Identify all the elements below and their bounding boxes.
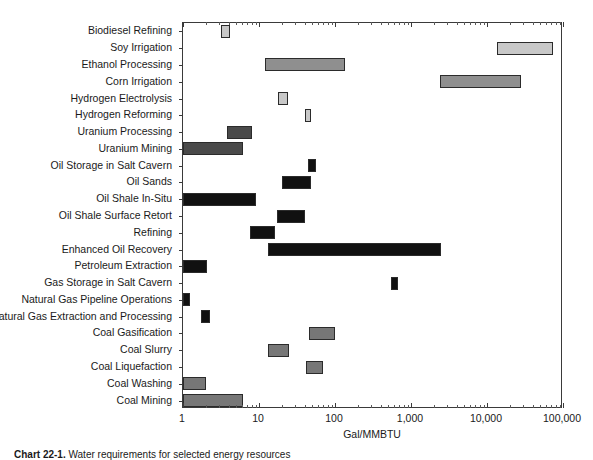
x-axis-minor-tick	[434, 22, 435, 25]
y-axis-tick	[179, 31, 183, 32]
y-axis-label-oil-shale-surface-retort: Oil Shale Surface Retort	[59, 209, 172, 221]
bar-soy-irrigation	[497, 42, 554, 55]
x-axis-minor-tick	[556, 22, 557, 25]
y-axis-tick	[179, 48, 183, 49]
y-axis-tick	[179, 367, 183, 368]
x-axis-minor-tick	[388, 405, 389, 408]
y-axis-label-biodiesel-refining: Biodiesel Refining	[88, 24, 172, 36]
x-axis-minor-tick	[510, 22, 511, 25]
x-axis-minor-tick	[295, 405, 296, 408]
bar-ethanol-processing	[265, 58, 345, 71]
bar-gas-storage-in-salt-cavern	[391, 277, 398, 290]
x-axis-minor-tick	[484, 405, 485, 408]
bar-petroleum-extraction	[183, 260, 207, 273]
chart-figure: Biodiesel RefiningSoy IrrigationEthanol …	[0, 0, 593, 460]
y-axis-tick	[179, 182, 183, 183]
x-axis-minor-tick	[408, 22, 409, 25]
x-axis-major-tick	[183, 22, 184, 27]
x-axis-minor-tick	[457, 22, 458, 25]
x-axis-minor-tick	[242, 22, 243, 25]
x-axis-major-tick	[335, 22, 336, 27]
x-axis-minor-tick	[480, 405, 481, 408]
x-axis-minor-tick	[229, 22, 230, 25]
x-axis-minor-tick	[399, 22, 400, 25]
bar-hydrogen-reforming	[305, 109, 312, 122]
y-axis-label-oil-storage-in-salt-cavern: Oil Storage in Salt Cavern	[51, 159, 172, 171]
x-axis-minor-tick	[236, 22, 237, 25]
y-axis-label-coal-washing: Coal Washing	[107, 377, 172, 389]
x-axis-major-tick	[411, 403, 412, 408]
y-axis-label-oil-shale-in-situ: Oil Shale In-Situ	[96, 192, 172, 204]
x-axis-minor-tick	[546, 22, 547, 25]
x-axis-minor-tick	[256, 22, 257, 25]
x-axis-major-tick	[259, 403, 260, 408]
x-axis-minor-tick	[219, 22, 220, 25]
x-axis-major-tick	[563, 403, 564, 408]
x-axis-minor-tick	[464, 22, 465, 25]
x-axis-minor-tick	[305, 405, 306, 408]
x-axis-minor-tick	[229, 405, 230, 408]
x-axis-major-tick	[487, 403, 488, 408]
y-axis-label-refining: Refining	[133, 226, 172, 238]
bar-corn-irrigation	[440, 75, 521, 88]
x-axis-major-tick	[335, 403, 336, 408]
bar-coal-slurry	[268, 344, 290, 357]
bar-natural-gas-extraction-and-processing	[201, 310, 209, 323]
x-axis-minor-tick	[533, 22, 534, 25]
y-axis-tick	[179, 99, 183, 100]
y-axis-label-soy-irrigation: Soy Irrigation	[110, 41, 172, 53]
x-axis-tick-label: 100	[325, 412, 343, 424]
y-axis-tick	[179, 65, 183, 66]
x-axis-minor-tick	[551, 22, 552, 25]
x-axis-minor-tick	[328, 22, 329, 25]
x-axis-minor-tick	[484, 22, 485, 25]
bar-oil-shale-in-situ	[183, 193, 256, 206]
x-axis-minor-tick	[312, 405, 313, 408]
y-axis-tick	[179, 250, 183, 251]
y-axis-tick	[179, 115, 183, 116]
caption-number: Chart 22-1.	[14, 449, 66, 460]
y-axis-label-gas-storage-in-salt-cavern: Gas Storage in Salt Cavern	[44, 276, 172, 288]
y-axis-label-coal-liquefaction: Coal Liquefaction	[91, 360, 172, 372]
x-axis-minor-tick	[305, 22, 306, 25]
x-axis-minor-tick	[457, 405, 458, 408]
x-axis-minor-tick	[510, 405, 511, 408]
x-axis-minor-tick	[252, 405, 253, 408]
x-axis-minor-tick	[447, 405, 448, 408]
x-axis-tick-label: 100,000	[543, 412, 581, 424]
y-axis-label-natural-gas-pipeline-operations: Natural Gas Pipeline Operations	[21, 293, 172, 305]
x-axis-minor-tick	[434, 405, 435, 408]
x-axis-minor-tick	[295, 22, 296, 25]
x-axis-minor-tick	[332, 405, 333, 408]
y-axis-category-labels: Biodiesel RefiningSoy IrrigationEthanol …	[0, 22, 178, 408]
x-axis-minor-tick	[247, 22, 248, 25]
x-axis-minor-tick	[381, 22, 382, 25]
bar-enhanced-oil-recovery	[268, 243, 442, 256]
y-axis-tick	[179, 317, 183, 318]
x-axis-minor-tick	[236, 405, 237, 408]
x-axis-minor-tick	[252, 22, 253, 25]
x-axis-minor-tick	[533, 405, 534, 408]
y-axis-tick	[179, 166, 183, 167]
bar-coal-mining	[183, 394, 243, 407]
x-axis-minor-tick	[282, 405, 283, 408]
y-axis-tick	[179, 233, 183, 234]
x-axis-minor-tick	[546, 405, 547, 408]
y-axis-label-coal-gasification: Coal Gasification	[93, 326, 172, 338]
x-axis-minor-tick	[475, 22, 476, 25]
x-axis-major-tick	[487, 22, 488, 27]
bar-uranium-mining	[183, 142, 243, 155]
x-axis-minor-tick	[312, 22, 313, 25]
x-axis-minor-tick	[206, 405, 207, 408]
x-axis-minor-tick	[404, 22, 405, 25]
bar-oil-sands	[282, 176, 312, 189]
x-axis-minor-tick	[540, 405, 541, 408]
y-axis-tick	[179, 132, 183, 133]
bar-hydrogen-electrolysis	[278, 92, 287, 105]
figure-caption: Chart 22-1. Water requirements for selec…	[14, 449, 584, 460]
bar-biodiesel-refining	[221, 25, 229, 38]
y-axis-tick	[179, 350, 183, 351]
x-axis-minor-tick	[470, 405, 471, 408]
y-axis-label-corn-irrigation: Corn Irrigation	[105, 75, 172, 87]
x-axis-minor-tick	[381, 405, 382, 408]
